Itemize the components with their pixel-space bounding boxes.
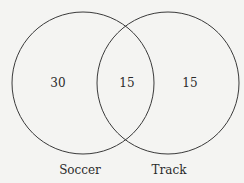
venn-diagram: 30 15 15 Soccer Track xyxy=(0,0,244,183)
both-count: 15 xyxy=(119,76,134,90)
track-only-count: 15 xyxy=(182,76,197,90)
track-circle xyxy=(97,12,239,154)
track-label: Track xyxy=(152,163,187,177)
soccer-label: Soccer xyxy=(59,163,101,177)
soccer-only-count: 30 xyxy=(50,76,65,90)
venn-circles xyxy=(0,0,244,183)
